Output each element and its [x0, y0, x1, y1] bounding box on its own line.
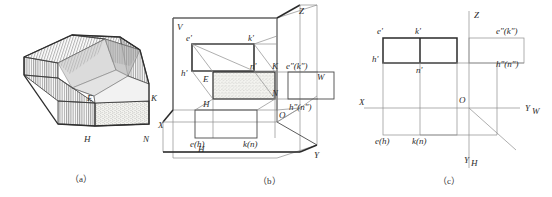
label-b-kn: k(n) [243, 139, 258, 149]
label-a-N: N [142, 134, 150, 144]
label-b-n-prime: n' [250, 61, 258, 71]
panel-b-projection-box: V Z X Y W H O e' k' h' n' E K H N e"(k")… [157, 5, 334, 186]
panel-a-isometric-solid: E K H N （a） [24, 35, 158, 184]
label-b-X: X [157, 120, 164, 130]
label-b-K: K [271, 61, 279, 71]
front-view-diagonal-b [192, 44, 254, 71]
label-c-X: X [358, 97, 365, 107]
object-rect-EKNH-b [213, 72, 275, 99]
fold-top-view-right [257, 99, 275, 110]
label-b-H: H [202, 99, 210, 109]
label-c-kn: k(n) [412, 136, 427, 146]
label-b-E: E [202, 74, 209, 84]
axis-Y-line-b [277, 122, 317, 145]
label-b-O: O [279, 110, 286, 120]
label-c-e-prime: e' [377, 26, 384, 36]
label-b-h2n2: h"(n") [289, 102, 312, 112]
side-view-rect-b [288, 72, 334, 99]
label-c-YW: Y [525, 103, 531, 113]
label-b-W: W [317, 72, 326, 82]
label-b-Y: Y [314, 150, 320, 160]
plane-W-fold [300, 5, 317, 108]
label-b-eh: e(h) [190, 139, 205, 149]
label-a-K: K [150, 93, 158, 103]
label-b-V: V [177, 22, 184, 32]
figure-root: E K H N （a） [0, 0, 552, 197]
label-b-Z: Z [299, 6, 305, 16]
caption-a: （a） [70, 174, 92, 184]
label-c-k-prime: k' [415, 26, 422, 36]
label-c-Z: Z [474, 10, 480, 20]
axis-X-ray-b [163, 110, 173, 122]
label-c-eh: e(h) [375, 136, 390, 146]
label-c-O: O [459, 95, 466, 105]
label-b-h-prime: h' [181, 68, 189, 78]
proj-line-k-prime [254, 36, 277, 44]
label-c-YH-sub: H [470, 158, 478, 168]
label-c-h2n2: h"(n") [496, 59, 519, 69]
bisector-45-c [469, 108, 516, 150]
label-a-E: E [86, 93, 93, 103]
face-front-left-slab [58, 101, 95, 126]
top-view-rect-b [195, 110, 257, 138]
label-b-e2k2: e"(k") [286, 61, 308, 71]
label-b-k-prime: k' [248, 33, 255, 43]
label-a-H: H [83, 134, 91, 144]
label-c-YH-group: Y H [464, 155, 478, 168]
caption-c: （c） [438, 176, 460, 186]
label-c-e2k2: e"(k") [496, 26, 518, 36]
label-c-n-prime: n' [416, 65, 424, 75]
label-b-N: N [271, 88, 279, 98]
label-c-h-prime: h' [372, 54, 380, 64]
panel-c-unfolded-views: Z X O Y W Y H e' k' h' n' e"(k") h"(n") … [358, 10, 541, 186]
caption-b: （b） [258, 176, 281, 186]
label-b-e-prime: e' [186, 33, 193, 43]
label-c-YW-sub: W [532, 106, 541, 116]
label-c-YW-group: Y W [525, 103, 541, 116]
face-front-slab-EKNH [95, 101, 149, 126]
